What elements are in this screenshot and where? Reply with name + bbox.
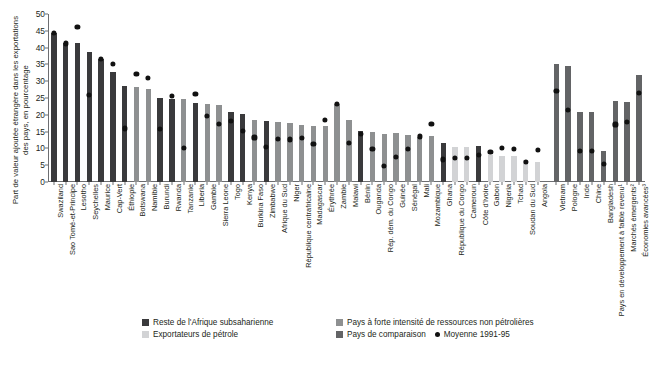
x-axis-label: Économies avancées³	[642, 184, 649, 257]
bar-slot	[107, 14, 119, 182]
bar[interactable]	[181, 99, 186, 182]
x-label-slot: Tanzanie	[178, 184, 190, 304]
bar[interactable]	[624, 102, 629, 182]
average-marker-icon	[134, 72, 139, 77]
average-marker-icon	[511, 146, 516, 151]
x-label-slot: Gabon	[484, 184, 496, 304]
x-label-slot: Niger	[284, 184, 296, 304]
bar[interactable]	[589, 112, 594, 182]
bar[interactable]	[370, 132, 375, 182]
bar[interactable]	[51, 33, 56, 182]
bar[interactable]	[535, 162, 540, 182]
bar[interactable]	[323, 126, 328, 182]
bar-slot	[142, 14, 154, 182]
bar-slot	[473, 14, 485, 182]
y-tick-label: 20	[36, 110, 45, 120]
bar[interactable]	[601, 151, 606, 182]
bar-slot	[178, 14, 190, 182]
bar[interactable]	[382, 134, 387, 182]
legend-item-rest: Reste de l'Afrique subsaharienne	[142, 318, 336, 327]
x-label-slot: République centrafricaine	[296, 184, 308, 304]
bar-slot	[48, 14, 60, 182]
bar[interactable]	[157, 98, 162, 182]
average-marker-icon	[110, 61, 115, 66]
bar[interactable]	[98, 59, 103, 182]
legend-label-rest: Reste de l'Afrique subsaharienne	[153, 318, 273, 327]
bar[interactable]	[334, 104, 339, 182]
average-marker-icon	[429, 121, 434, 126]
bar[interactable]	[452, 147, 457, 182]
x-label-slot: Rwanda	[166, 184, 178, 304]
bar-slot	[621, 14, 633, 182]
bar[interactable]	[429, 136, 434, 182]
bar-slot	[201, 14, 213, 182]
bar-slot	[378, 14, 390, 182]
y-tick-label: 10	[36, 143, 45, 153]
x-label-slot: Inde	[574, 184, 586, 304]
bar[interactable]	[122, 86, 127, 182]
x-label-slot: Marchés émergents²	[621, 184, 633, 304]
bar-slot	[461, 14, 473, 182]
bar[interactable]	[346, 120, 351, 182]
bar-slot	[390, 14, 402, 182]
x-label-slot: Sénégal	[402, 184, 414, 304]
bar[interactable]	[275, 122, 280, 182]
x-label-slot: Nigeria	[496, 184, 508, 304]
bar[interactable]	[87, 52, 92, 182]
bar[interactable]	[464, 147, 469, 182]
bar[interactable]	[417, 137, 422, 182]
bar[interactable]	[358, 131, 363, 182]
bar[interactable]	[63, 43, 68, 182]
bar[interactable]	[499, 156, 504, 182]
bar[interactable]	[193, 103, 198, 182]
y-tick-label: 5	[40, 160, 45, 170]
bar[interactable]	[405, 135, 410, 182]
average-marker-icon	[323, 117, 328, 122]
x-label-slot: Soudan du Sud	[520, 184, 532, 304]
bar[interactable]	[565, 66, 570, 182]
bar[interactable]	[75, 43, 80, 182]
bar[interactable]	[488, 155, 493, 182]
bar-slot	[319, 14, 331, 182]
bar[interactable]	[110, 72, 115, 182]
bar[interactable]	[146, 89, 151, 182]
bar-slot	[272, 14, 284, 182]
legend-row-1: Reste de l'Afrique subsaharienne Pays à …	[142, 318, 612, 327]
chart-legend: Reste de l'Afrique subsaharienne Pays à …	[142, 318, 612, 342]
bar-slot	[520, 14, 532, 182]
x-axis-label: Angola	[541, 184, 549, 207]
legend-label-comparison: Pays de comparaison	[347, 330, 426, 339]
x-label-slot: Bangladesh	[598, 184, 610, 304]
bar[interactable]	[577, 112, 582, 182]
bar[interactable]	[287, 123, 292, 182]
x-label-slot: Gambie	[201, 184, 213, 304]
x-label-slot: Guinée	[390, 184, 402, 304]
bar[interactable]	[511, 156, 516, 182]
bar[interactable]	[134, 87, 139, 182]
bar-slot	[367, 14, 379, 182]
bar[interactable]	[311, 126, 316, 182]
x-label-slot: Madagascar	[308, 184, 320, 304]
bar-slot	[449, 14, 461, 182]
x-label-slot: Togo	[225, 184, 237, 304]
bar[interactable]	[441, 143, 446, 182]
bar-slot	[237, 14, 249, 182]
bar[interactable]	[240, 114, 245, 182]
bar[interactable]	[554, 64, 559, 182]
bar[interactable]	[613, 101, 618, 182]
bar-slot	[95, 14, 107, 182]
bar[interactable]	[299, 125, 304, 182]
bar[interactable]	[216, 105, 221, 182]
x-label-slot: Namibie	[142, 184, 154, 304]
x-label-slot: Bénin	[355, 184, 367, 304]
x-label-slot: Zimbabwe	[260, 184, 272, 304]
x-label-slot: Rép. dém. du Congo	[378, 184, 390, 304]
y-tick-label: 0	[40, 177, 45, 187]
bar[interactable]	[169, 99, 174, 182]
x-label-slot: Mozambique	[426, 184, 438, 304]
x-label-slot: Liberia	[190, 184, 202, 304]
bar[interactable]	[252, 120, 257, 182]
bar[interactable]	[264, 121, 269, 182]
bar-slot	[550, 14, 562, 182]
average-marker-icon	[146, 75, 151, 80]
